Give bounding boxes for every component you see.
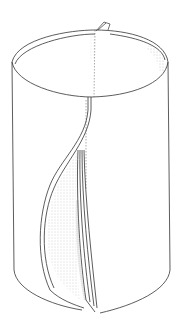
rim-shading: [16, 34, 166, 92]
illustration-canvas: [0, 0, 182, 335]
flap-shading: [47, 150, 80, 300]
cylinder-sleeve-drawing: [0, 0, 182, 335]
